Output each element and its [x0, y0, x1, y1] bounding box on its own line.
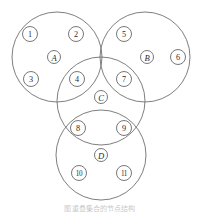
set-label-b-text: B — [144, 53, 150, 63]
node-3-label: 3 — [29, 75, 33, 84]
figure-caption: 图 重叠集合的节点结构 — [0, 203, 199, 212]
node-4: 4 — [70, 72, 85, 87]
node-9: 9 — [117, 121, 132, 136]
node-10: 10 — [72, 166, 87, 181]
node-10-label: 10 — [76, 170, 83, 178]
node-8-label: 8 — [76, 124, 80, 133]
node-4-label: 4 — [75, 75, 79, 84]
set-circles-layer — [12, 12, 190, 200]
node-6: 6 — [171, 50, 186, 65]
node-2-label: 2 — [74, 30, 78, 39]
set-label-d: D — [95, 149, 108, 162]
node-6-label: 6 — [176, 53, 180, 62]
node-8: 8 — [71, 121, 86, 136]
node-11: 11 — [117, 166, 132, 181]
node-11-label: 11 — [121, 170, 128, 178]
set-label-d-text: D — [97, 151, 105, 161]
node-3: 3 — [24, 72, 39, 87]
node-1-label: 1 — [28, 30, 32, 39]
node-7: 7 — [117, 72, 132, 87]
set-label-c: C — [95, 91, 108, 104]
node-5-label: 5 — [122, 30, 126, 39]
node-1: 1 — [23, 27, 38, 42]
node-5: 5 — [117, 27, 132, 42]
set-label-b: B — [141, 51, 154, 64]
set-label-a: A — [48, 51, 61, 64]
set-label-a-text: A — [50, 53, 57, 63]
venn-diagram-figure: A B C D 1 2 — [0, 0, 199, 212]
set-label-c-text: C — [98, 93, 104, 103]
venn-diagram-canvas: A B C D 1 2 — [0, 0, 199, 212]
node-2: 2 — [69, 27, 84, 42]
node-9-label: 9 — [122, 124, 126, 133]
node-7-label: 7 — [122, 75, 126, 84]
